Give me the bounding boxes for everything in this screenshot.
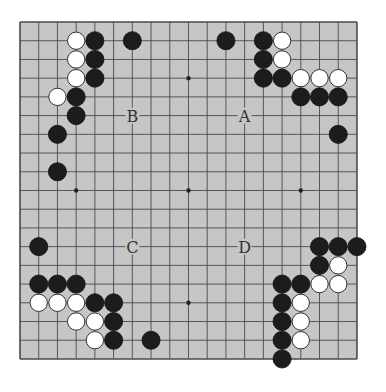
black-stone: [273, 69, 291, 87]
black-stone: [273, 312, 291, 330]
white-stone: [49, 294, 66, 311]
black-stone: [273, 294, 291, 312]
position-label-a: A: [238, 107, 251, 126]
black-stone: [48, 125, 66, 143]
black-stone: [310, 238, 328, 256]
black-stone: [329, 238, 347, 256]
black-stone: [292, 88, 310, 106]
black-stone: [254, 50, 272, 68]
black-stone: [67, 107, 85, 125]
black-stone: [67, 275, 85, 293]
black-stone: [292, 275, 310, 293]
black-stone: [86, 294, 104, 312]
black-stone: [310, 256, 328, 274]
white-stone: [86, 332, 103, 349]
white-stone: [273, 51, 290, 68]
star-point: [186, 301, 190, 305]
white-stone: [330, 257, 347, 274]
go-board-diagram: BACD: [0, 0, 386, 392]
black-stone: [86, 32, 104, 50]
black-stone: [105, 331, 123, 349]
black-stone: [105, 294, 123, 312]
white-stone: [68, 313, 85, 330]
black-stone: [67, 88, 85, 106]
white-stone: [68, 70, 85, 87]
black-stone: [254, 69, 272, 87]
white-stone: [86, 313, 103, 330]
black-stone: [273, 275, 291, 293]
black-stone: [123, 32, 141, 50]
white-stone: [68, 294, 85, 311]
black-stone: [86, 69, 104, 87]
position-label-c: C: [126, 238, 138, 257]
star-point: [186, 188, 190, 192]
star-point: [186, 76, 190, 80]
white-stone: [311, 70, 328, 87]
star-point: [299, 188, 303, 192]
black-stone: [273, 331, 291, 349]
white-stone: [311, 275, 328, 292]
black-stone: [48, 275, 66, 293]
position-label-d: D: [238, 238, 251, 257]
white-stone: [68, 51, 85, 68]
white-stone: [273, 32, 290, 49]
position-label-b: B: [126, 107, 138, 126]
black-stone: [273, 350, 291, 368]
white-stone: [330, 70, 347, 87]
black-stone: [48, 163, 66, 181]
black-stone: [329, 125, 347, 143]
black-stone: [142, 331, 160, 349]
black-stone: [310, 88, 328, 106]
white-stone: [30, 294, 47, 311]
black-stone: [86, 50, 104, 68]
go-board: BACD: [0, 0, 386, 392]
black-stone: [329, 88, 347, 106]
white-stone: [49, 88, 66, 105]
black-stone: [105, 312, 123, 330]
black-stone: [254, 32, 272, 50]
white-stone: [292, 70, 309, 87]
star-point: [74, 188, 78, 192]
white-stone: [292, 332, 309, 349]
white-stone: [292, 294, 309, 311]
white-stone: [68, 32, 85, 49]
black-stone: [348, 238, 366, 256]
black-stone: [30, 238, 48, 256]
black-stone: [217, 32, 235, 50]
black-stone: [30, 275, 48, 293]
white-stone: [330, 275, 347, 292]
white-stone: [292, 313, 309, 330]
